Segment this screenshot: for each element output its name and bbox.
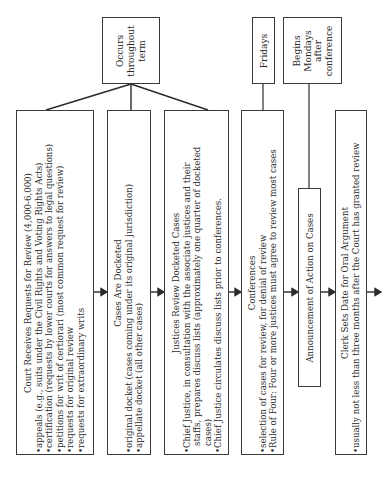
step-bullet-continuation: cases) — [202, 113, 213, 453]
step-title: Court Receives Requests for Review (4,00… — [23, 113, 34, 453]
step-bullet: •appeals (e.g., suits under the Civil Ri… — [34, 113, 45, 453]
step-announcement: Announcement of Action on Cases — [298, 188, 321, 387]
timing-box-fridays: Fridays — [252, 17, 275, 84]
step-bullet: •certification (requests by lower courts… — [44, 113, 55, 453]
step-bullet: •Rule of Four: Four or more justices mus… — [268, 113, 279, 453]
step-bullet: •Chief Justice, in consultation with the… — [181, 113, 192, 453]
step-clerk-sets-date: Clerk Sets Date for Oral Argument •usual… — [335, 110, 367, 455]
timing-label: Begins — [292, 25, 303, 76]
timing-label: term — [137, 25, 148, 76]
timing-box-throughout-term: Occurs throughout term — [102, 17, 160, 84]
step-bullet: •requests for extraordinary writs — [76, 113, 87, 453]
timing-label: Mondays — [302, 25, 313, 76]
timing-label: after — [313, 25, 324, 76]
step-title: Justices Review Docketed Cases — [170, 113, 181, 453]
step-bullet-continuation: staffs, prepares discuss lists (approxim… — [191, 113, 202, 453]
step-bullet: •requests for original review — [66, 113, 77, 453]
step-bullet: •appellate docket (all other cases) — [134, 113, 145, 453]
step-conferences: Conferences •selection of cases for revi… — [241, 110, 284, 455]
step-bullet: •Chief Justice circulates discuss lists … — [212, 113, 223, 453]
step-cases-docketed: Cases Are Docketed •original docket (cas… — [107, 110, 151, 455]
step-bullet: •usually not less than three months afte… — [351, 113, 362, 453]
step-court-receives-requests: Court Receives Requests for Review (4,00… — [16, 110, 94, 455]
connector-line — [46, 84, 131, 110]
arrow-right-icon — [375, 289, 381, 296]
timing-label: conference — [323, 25, 334, 76]
connector-line — [131, 84, 208, 110]
timing-label: Occurs — [115, 25, 126, 76]
step-title: Announcement of Action on Cases — [304, 213, 315, 362]
step-bullet: •petitions for writ of certiorari (most … — [55, 113, 66, 453]
timing-label: Fridays — [258, 33, 269, 67]
timing-label: throughout — [126, 25, 137, 76]
step-title: Cases Are Docketed — [113, 113, 124, 453]
step-title: Clerk Sets Date for Oral Argument — [340, 113, 351, 453]
step-justices-review: Justices Review Docketed Cases •Chief Ju… — [164, 110, 229, 455]
step-bullet: •selection of cases for review, for deni… — [257, 113, 268, 453]
timing-box-begins-mondays: Begins Mondays after conference — [283, 17, 342, 84]
step-bullet: •original docket (cases coming under its… — [124, 113, 135, 453]
step-title: Conferences — [247, 113, 258, 453]
